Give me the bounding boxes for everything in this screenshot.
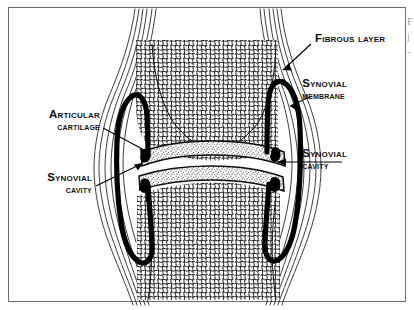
clipped-edge-text-fragment: F j - xyxy=(407,14,414,66)
figure-root: Fibrous layer Synovial membrane Synovial… xyxy=(0,0,414,310)
synovial-joint-diagram xyxy=(0,0,414,310)
edge-fragment-line3: - xyxy=(407,44,414,59)
label-articular-cartilage-line1: Articular xyxy=(49,108,100,120)
label-synovial-cavity-left-line1: Synovial xyxy=(47,171,92,183)
label-synovial-cavity-left: Synovial cavity xyxy=(47,172,92,195)
edge-fragment-line1: F xyxy=(407,14,414,29)
label-articular-cartilage-line2: cartilage xyxy=(49,121,100,133)
edge-fragment-line2: j xyxy=(407,29,414,44)
label-synovial-cavity-right-line1: Synovial xyxy=(302,147,347,159)
label-synovial-cavity-right: Synovial cavity xyxy=(302,148,347,171)
label-fibrous-layer: Fibrous layer xyxy=(315,33,385,45)
label-articular-cartilage: Articular cartilage xyxy=(49,109,100,132)
label-synovial-membrane-line2: membrane xyxy=(302,90,347,102)
label-synovial-membrane: Synovial membrane xyxy=(302,78,347,101)
label-synovial-cavity-left-line2: cavity xyxy=(47,184,92,196)
label-synovial-cavity-right-line2: cavity xyxy=(302,160,347,172)
label-synovial-membrane-line1: Synovial xyxy=(302,77,347,89)
label-fibrous-layer-line1: Fibrous layer xyxy=(315,32,385,44)
